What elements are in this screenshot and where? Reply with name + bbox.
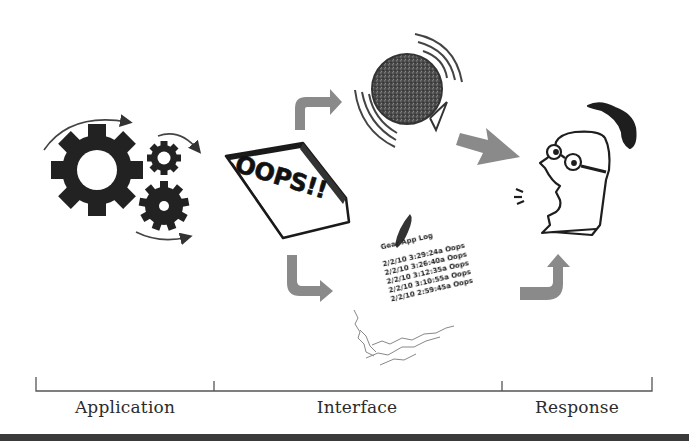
timeline-axis [36, 377, 652, 391]
spinning-wait-ball-icon [355, 34, 462, 147]
arrow-right-icon [456, 128, 520, 165]
stage-label-response: Response [535, 397, 619, 417]
curved-arrow-down-right-icon [287, 255, 333, 302]
surprised-person-icon [514, 103, 635, 235]
medium-gear-icon [139, 181, 190, 231]
large-gear-icon [51, 124, 143, 216]
gears-icon [44, 120, 198, 240]
diagram-canvas [0, 0, 689, 446]
stage-label-interface: Interface [317, 397, 398, 417]
stage-label-application: Application [75, 397, 175, 417]
curved-arrow-up-right-icon [295, 89, 342, 130]
bottom-border-bar [0, 434, 689, 441]
curved-arrow-up-icon [520, 254, 570, 300]
rotation-arrow-icon [136, 232, 188, 240]
small-gear-icon [147, 141, 181, 175]
